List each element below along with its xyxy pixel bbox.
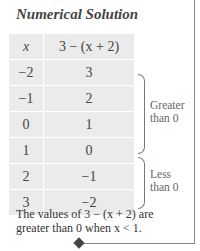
cell-value: 2 [44, 86, 135, 112]
values-table: x 3 − (x + 2) −2 3 −1 2 0 1 1 0 2 −1 3 −… [8, 33, 135, 216]
header-expression: 3 − (x + 2) [44, 34, 135, 60]
header-x: x [9, 34, 44, 60]
cell-x: 0 [9, 112, 44, 138]
frame-border-right [194, 0, 195, 244]
caption-text: The values of 3 − (x + 2) are greater th… [16, 207, 156, 235]
cell-value: −1 [44, 164, 135, 190]
brace-less-icon [138, 157, 145, 209]
cell-x: −2 [9, 60, 44, 86]
cell-x: −1 [9, 86, 44, 112]
cell-x: 2 [9, 164, 44, 190]
table-row: −1 2 [9, 86, 135, 112]
table-row: 1 0 [9, 138, 135, 164]
table-header-row: x 3 − (x + 2) [9, 34, 135, 60]
cell-value: 0 [44, 138, 135, 164]
label-less-than-zero: Less than 0 [150, 168, 190, 194]
label-greater-than-zero: Greater than 0 [150, 99, 190, 125]
table-row: 2 −1 [9, 164, 135, 190]
frame-border-bottom [80, 243, 195, 244]
section-title: Numerical Solution [16, 6, 138, 23]
cell-value: 1 [44, 112, 135, 138]
table-row: −2 3 [9, 60, 135, 86]
cell-x: 1 [9, 138, 44, 164]
diamond-marker-icon [73, 237, 84, 248]
cell-value: 3 [44, 60, 135, 86]
brace-greater-icon [138, 74, 145, 154]
table-row: 0 1 [9, 112, 135, 138]
